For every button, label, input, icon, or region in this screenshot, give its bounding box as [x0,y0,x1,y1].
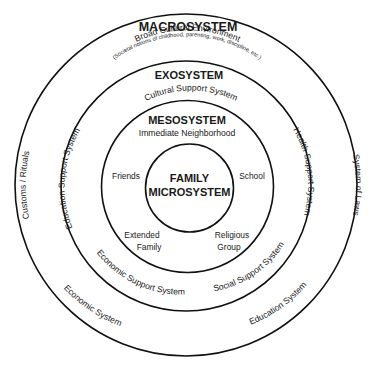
macrosystem-education-system: Education System [248,280,309,327]
mesosystem-subtitle: Immediate Neighborhood [139,128,236,138]
macrosystem-system-of-laws: System of Laws [351,153,364,216]
mesosystem-extended-family-line2: Family [137,242,162,252]
exosystem-economic-support: Economic Support System [95,248,185,297]
microsystem-title-line2: MICROSYSTEM [149,186,231,198]
mesosystem-religious-group-line1: Religious [215,230,249,240]
mesosystem-school: School [239,171,265,181]
macrosystem-customs-rituals: Customs / Rituals [18,150,32,220]
microsystem-title-line1: FAMILY [170,172,210,184]
exosystem-education-support: Education Support System [56,126,82,231]
mesosystem-title: MESOSYSTEM [148,114,226,126]
ecological-systems-diagram: MACROSYSTEM Broad Cultural Environment (… [0,0,371,371]
mesosystem-extended-family-line1: Extended [124,230,160,240]
macrosystem-economic-system: Economic System [62,283,123,328]
exosystem-health-support: Health Support System [291,126,316,217]
exosystem-title: EXOSYSTEM [155,69,223,81]
mesosystem-friends: Friends [112,171,140,181]
mesosystem-religious-group-line2: Group [217,242,241,252]
